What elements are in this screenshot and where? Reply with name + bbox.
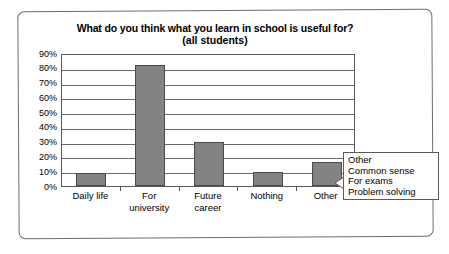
x-axis-tick-label: Daily life <box>61 190 120 202</box>
y-axis-tick-label: 70% <box>27 79 57 88</box>
plot-area <box>61 54 355 187</box>
x-axis-tick-label: Nothing <box>237 190 296 202</box>
y-axis-tick-label: 80% <box>27 64 57 73</box>
x-axis-tick-mark <box>120 187 121 191</box>
y-axis-tick-label: 50% <box>27 109 57 118</box>
y-axis-tick-label: 0% <box>27 183 57 192</box>
x-axis-tick-label-line: Daily life <box>61 190 120 202</box>
x-axis-tick-label-line: Future <box>179 190 238 202</box>
y-axis-tick-label: 20% <box>27 153 57 162</box>
callout-line: Problem solving <box>348 187 436 198</box>
bar <box>253 172 283 186</box>
chart-title: What do you think what you learn in scho… <box>40 22 390 34</box>
y-axis: 90%80%70%60%50%40%30%20%10%0% <box>27 54 57 187</box>
bar <box>135 65 165 186</box>
y-axis-tick-label: 10% <box>27 168 57 177</box>
x-axis-tick-label-line: For <box>120 190 179 202</box>
chart-subtitle: (all students) <box>40 34 390 46</box>
gridline <box>62 70 354 71</box>
x-axis-tick-mark <box>237 187 238 191</box>
gridline <box>62 85 354 86</box>
callout-box: OtherCommon senseFor examsProblem solvin… <box>343 152 439 200</box>
y-axis-tick-label: 40% <box>27 123 57 132</box>
bar <box>76 173 106 186</box>
callout-line: Other <box>348 155 436 166</box>
gridline <box>62 129 354 130</box>
x-axis-tick-label-line: Nothing <box>237 190 296 202</box>
y-axis-tick-label: 90% <box>27 50 57 59</box>
x-axis-tick-label: Foruniversity <box>120 190 179 213</box>
bar <box>194 142 224 186</box>
y-axis-tick-label: 30% <box>27 138 57 147</box>
x-axis-tick-label-line: career <box>179 202 238 214</box>
bar-chart: What do you think what you learn in scho… <box>0 0 449 254</box>
x-axis-tick-mark <box>296 187 297 191</box>
gridline <box>62 99 354 100</box>
x-axis-tick-mark <box>179 187 180 191</box>
gridline <box>62 114 354 115</box>
x-axis-tick-label: Futurecareer <box>179 190 238 213</box>
x-axis: Daily lifeForuniversityFuturecareerNothi… <box>61 190 355 230</box>
y-axis-tick-label: 60% <box>27 94 57 103</box>
x-axis-tick-label-line: university <box>120 202 179 214</box>
callout-line: For exams <box>348 176 436 187</box>
